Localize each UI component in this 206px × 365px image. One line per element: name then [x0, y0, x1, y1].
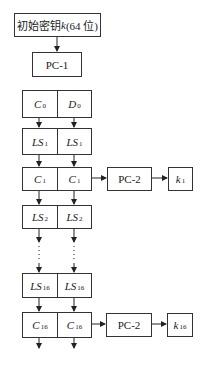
cell-base: LS	[65, 280, 77, 292]
cell-base: LS	[32, 136, 44, 148]
pc2-label: PC-2	[118, 173, 141, 185]
key-sub: 1	[182, 177, 186, 185]
k16-box: k16	[167, 313, 193, 337]
cell-sub: 1	[42, 177, 46, 185]
initial-key-suffix: (64 位)	[66, 17, 98, 33]
cell-sub: 1	[45, 140, 49, 148]
cell-base: C	[69, 173, 76, 185]
ls16-left-cell: LS16	[22, 273, 58, 298]
cell-sub: 16	[41, 323, 48, 331]
pc2-box-round16: PC-2	[106, 313, 152, 337]
cell-base: C	[67, 319, 74, 331]
key-sub: 16	[179, 323, 186, 331]
cell-sub: 16	[77, 284, 84, 292]
cell-sub: 2	[79, 215, 83, 223]
cell-base: C	[32, 319, 39, 331]
cell-base: LS	[32, 211, 44, 223]
d0-cell: D0	[57, 90, 92, 118]
c0-cell: C0	[22, 90, 58, 118]
pc2-box-round1: PC-2	[107, 167, 152, 191]
cell-base: C	[34, 98, 41, 110]
cell-base: LS	[66, 136, 78, 148]
key-base: k	[174, 319, 179, 331]
ls16-right-cell: LS16	[57, 273, 92, 298]
pc1-label: PC-1	[46, 59, 69, 71]
pc1-box: PC-1	[32, 52, 82, 77]
initial-key-prefix: 初始密钥	[17, 17, 61, 33]
ls2-right-cell: LS2	[57, 205, 92, 229]
cell-base: D	[68, 98, 76, 110]
cell-sub: 2	[45, 215, 49, 223]
pc2-label: PC-2	[118, 319, 141, 331]
key-base: k	[176, 173, 181, 185]
cell-sub: 1	[77, 177, 81, 185]
initial-key-box: 初始密钥k(64 位)	[14, 13, 101, 37]
cell-sub: 0	[77, 102, 81, 110]
cell-sub: 0	[42, 102, 46, 110]
ls2-left-cell: LS2	[22, 205, 58, 229]
ls1-left-cell: LS1	[22, 128, 58, 155]
cell-sub: 16	[75, 323, 82, 331]
c1-right-cell: C1	[57, 167, 92, 191]
c16-right-cell: C16	[57, 312, 92, 338]
k1-box: k1	[168, 167, 193, 191]
cell-sub: 16	[43, 284, 50, 292]
cell-sub: 1	[79, 140, 83, 148]
cell-base: LS	[30, 280, 42, 292]
ls1-right-cell: LS1	[57, 128, 92, 155]
c1-left-cell: C1	[22, 167, 58, 191]
cell-base: C	[34, 173, 41, 185]
cell-base: LS	[66, 211, 78, 223]
c16-left-cell: C16	[22, 312, 58, 338]
